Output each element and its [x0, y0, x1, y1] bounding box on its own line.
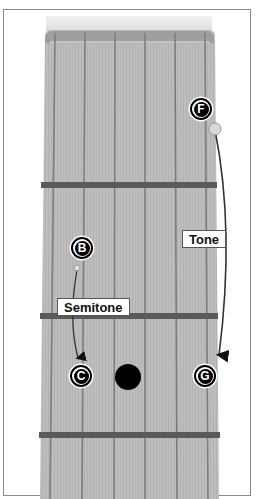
- note-g: G: [194, 365, 216, 387]
- fret-3: [39, 432, 220, 438]
- tone-label: Tone: [182, 230, 226, 248]
- inlay-marker-dot: [115, 364, 141, 390]
- string-3: [114, 33, 115, 499]
- headstock: [46, 16, 212, 32]
- fret-1: [41, 182, 217, 188]
- semitone-label: Semitone: [57, 298, 130, 316]
- fretboard: [0, 0, 256, 499]
- semitone-start-dot: [74, 265, 80, 271]
- note-b: B: [71, 237, 93, 259]
- note-f: F: [190, 98, 212, 120]
- tone-start-dot: [209, 123, 221, 135]
- nut: [45, 31, 214, 43]
- note-c: C: [70, 365, 92, 387]
